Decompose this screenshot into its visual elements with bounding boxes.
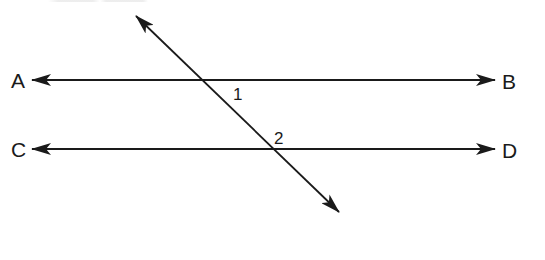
point-label-c: C	[11, 139, 26, 160]
diagram-figure	[0, 0, 545, 260]
transversal-line	[136, 16, 339, 212]
angle-label-1: 1	[233, 86, 242, 103]
angle-label-2: 2	[274, 130, 283, 147]
point-label-b: B	[502, 71, 516, 92]
clipped-heading-fragment	[48, 0, 148, 2]
parallel-lines-diagram: A B C D 1 2	[0, 0, 545, 260]
point-label-d: D	[502, 140, 517, 161]
point-label-a: A	[11, 70, 25, 91]
